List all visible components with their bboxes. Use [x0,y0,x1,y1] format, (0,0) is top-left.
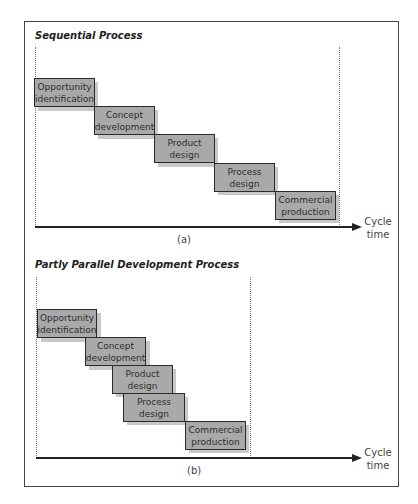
panel-a-axis-label: Cycle time [358,215,398,241]
axis-label-line: Cycle [358,215,398,228]
panel-b-stage-commercial-production: Commercialproduction [185,421,246,450]
stage-label: Concept [86,340,145,352]
stage-label: Process [227,166,261,178]
stage-label: design [125,380,159,392]
stage-label: Commercial [279,194,333,206]
panel-b-start-line [36,277,37,458]
panel-b-stage-opportunity-identification: Opportunityidentification [37,309,97,338]
panel-a-stage-concept-development: Conceptdevelopment [94,106,155,135]
panel-a-stage-process-design: Processdesign [214,163,275,192]
panel-a-start-line [35,47,36,227]
panel-b-stage-concept-development: Conceptdevelopment [85,337,146,366]
stage-label: identification [38,324,97,336]
panel-a-stage-commercial-production: Commercialproduction [275,191,336,220]
stage-label: design [137,408,171,420]
stage-label: Concept [95,109,154,121]
stage-label: design [227,178,261,190]
stage-label: production [279,206,333,218]
stage-label: Commercial [189,424,243,436]
panel-a-end-line [339,47,340,227]
stage-label: production [189,436,243,448]
stage-label: development [86,352,145,364]
stage-label: Product [167,137,201,149]
stage-label: Process [137,396,171,408]
stage-label: design [167,149,201,161]
stage-label: Opportunity [35,81,94,93]
panel-a-stage-opportunity-identification: Opportunityidentification [34,78,95,107]
stage-label: identification [35,93,94,105]
panel-b-end-line [250,277,251,458]
panel-b-label: (b) [187,465,201,476]
panel-a-time-axis [35,226,353,228]
axis-label-line: Cycle [358,446,398,459]
panel-b-stage-process-design: Processdesign [123,393,185,422]
stage-label: Product [125,368,159,380]
axis-label-line: time [358,459,398,472]
panel-b-stage-product-design: Productdesign [112,365,173,394]
panel-a-stage-product-design: Productdesign [154,134,215,163]
panel-a-label: (a) [177,234,191,245]
axis-label-line: time [358,228,398,241]
panel-b-title: Partly Parallel Development Process [35,259,239,270]
stage-label: Opportunity [38,312,97,324]
panel-b-axis-label: Cycle time [358,446,398,472]
stage-label: development [95,121,154,133]
panel-a-title: Sequential Process [35,30,142,41]
panel-b-time-axis [36,457,353,459]
